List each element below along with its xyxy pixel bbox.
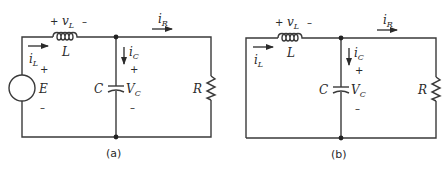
circuit-a: + vL – L iL + E – iR iC + C VC – R (a) — [9, 12, 215, 160]
wire — [83, 37, 211, 76]
vL-minus: – — [82, 16, 87, 27]
wire — [246, 38, 278, 138]
caption-a: (a) — [106, 147, 121, 160]
junction-dot — [339, 36, 344, 41]
vC-minus: – — [355, 103, 360, 114]
vC-label: VC — [351, 83, 366, 99]
vC-plus: + — [130, 64, 138, 75]
iL-label: iL — [29, 52, 38, 68]
capacitor-label: C — [94, 82, 103, 96]
source-plus: + — [40, 64, 48, 75]
iL-label: iL — [254, 53, 263, 69]
vL-label: vL — [62, 14, 74, 30]
resistor-label: R — [417, 83, 427, 97]
inductor-label: L — [61, 45, 70, 59]
iC-label: iC — [129, 45, 139, 61]
resistor-label: R — [192, 82, 202, 96]
iR-label: iR — [383, 13, 393, 29]
vC-plus: + — [355, 65, 363, 76]
resistor-symbol — [207, 76, 215, 100]
junction-dot — [339, 136, 344, 141]
iR-label: iR — [158, 12, 168, 28]
source-minus: – — [40, 102, 45, 113]
circuit-b: + vL – L iL iR iC + C VC – R (b) — [246, 13, 440, 161]
iC-label: iC — [354, 46, 364, 62]
wire — [308, 38, 436, 77]
inductor-symbol — [53, 33, 83, 41]
resistor-symbol — [432, 77, 440, 101]
vL-plus: + — [275, 17, 283, 28]
vL-minus: – — [307, 17, 312, 28]
vL-label: vL — [287, 15, 299, 31]
vC-label: VC — [126, 82, 141, 98]
vC-minus: – — [130, 102, 135, 113]
capacitor-label: C — [319, 83, 328, 97]
junction-dot — [114, 135, 119, 140]
junction-dot — [114, 35, 119, 40]
inductor-symbol — [278, 34, 308, 42]
voltage-source-symbol — [9, 75, 35, 101]
inductor-label: L — [286, 46, 295, 60]
caption-b: (b) — [331, 148, 347, 161]
source-label: E — [38, 82, 48, 96]
vL-plus: + — [50, 16, 58, 27]
